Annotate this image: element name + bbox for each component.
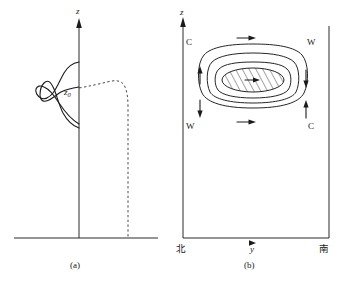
panel-a-graphic bbox=[0, 0, 172, 283]
panel-b-top-arrow bbox=[237, 35, 256, 40]
panel-b-label-top-right: W bbox=[307, 38, 316, 47]
panel-b-left-lower-arrow bbox=[197, 100, 202, 118]
panel-a-reference-profile-curve bbox=[79, 81, 128, 237]
panel-a-caption: (a) bbox=[70, 260, 80, 270]
panel-a-z-axis-arrowhead bbox=[76, 18, 82, 28]
panel-a-level-label-subscript: 0 bbox=[68, 91, 71, 98]
panel-b-label-bottom-left: W bbox=[186, 122, 195, 131]
figure-container: z z0 (a) bbox=[0, 0, 343, 283]
panel-b-label-top-left: C bbox=[186, 38, 192, 47]
panel-b-z-axis-label: z bbox=[180, 8, 184, 17]
panel-a: z z0 (a) bbox=[0, 0, 172, 283]
panel-b-y-axis-label: y bbox=[250, 245, 254, 254]
panel-a-z-axis-label: z bbox=[76, 7, 80, 16]
panel-b-graphic bbox=[171, 0, 343, 283]
panel-b-caption: (b) bbox=[244, 260, 255, 270]
panel-b-label-bottom-right: C bbox=[308, 122, 314, 131]
panel-b-bottom-arrow bbox=[237, 119, 256, 124]
panel-b-right-lower-arrow bbox=[303, 100, 308, 118]
panel-b-z-axis-arrowhead bbox=[180, 17, 186, 27]
panel-b: z C W W C 北 y 南 (b) bbox=[171, 0, 343, 283]
panel-a-broad-profile-curve bbox=[36, 62, 79, 124]
panel-a-level-label: z0 bbox=[64, 88, 71, 98]
panel-b-axis-end-label-left: 北 bbox=[176, 244, 186, 254]
panel-b-axis-end-label-right: 南 bbox=[319, 244, 329, 254]
